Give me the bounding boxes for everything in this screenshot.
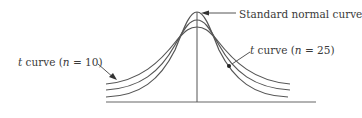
pointer-dot-icon <box>227 64 231 68</box>
label-standard-normal: Standard normal curve <box>239 9 362 20</box>
label-t10: t curve (n = 10) <box>18 57 103 68</box>
label-value: = 10) <box>70 56 103 68</box>
label-text: curve ( <box>254 44 295 56</box>
pointer-t25 <box>232 52 250 64</box>
label-t25: t curve (n = 25) <box>250 45 335 56</box>
label-text: curve ( <box>22 56 63 68</box>
label-n: n <box>63 56 70 68</box>
label-value: = 25) <box>302 44 335 56</box>
label-text: Standard normal curve <box>239 8 362 20</box>
label-n: n <box>295 44 302 56</box>
